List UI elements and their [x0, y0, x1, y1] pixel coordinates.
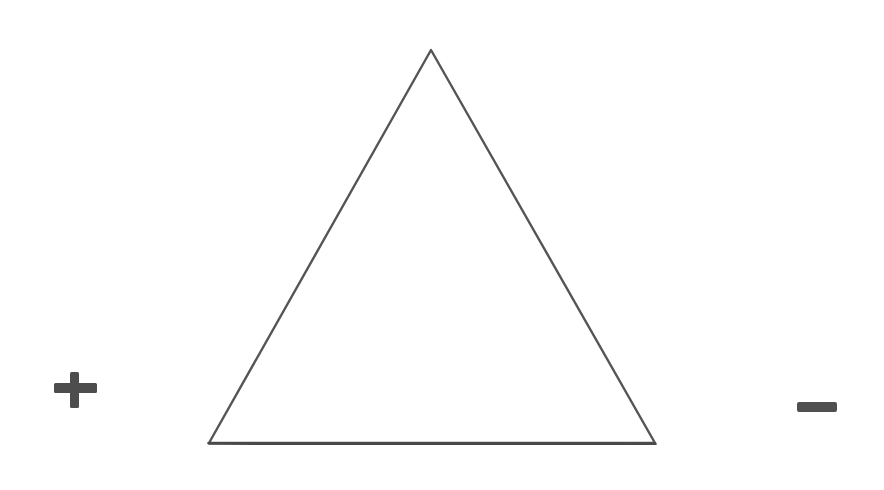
- triangle-shape: [209, 50, 655, 443]
- triangle-base: [209, 443, 655, 444]
- sketch-canvas: [0, 0, 884, 490]
- minus-sign-icon: [797, 402, 837, 412]
- plus-sign-icon: [54, 372, 97, 408]
